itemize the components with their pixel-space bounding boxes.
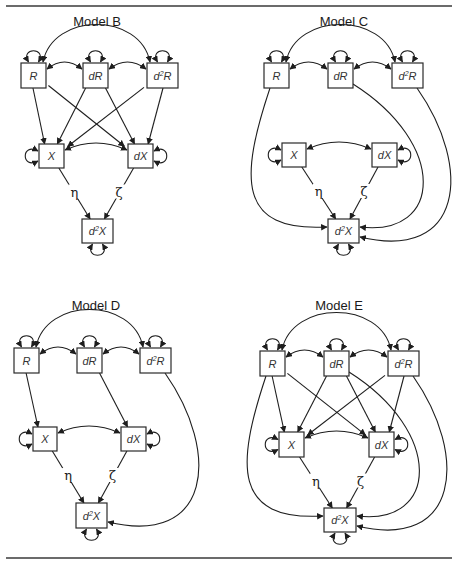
path-r-to-x <box>26 373 38 427</box>
path-r-to-x <box>33 88 45 144</box>
variance-dx <box>395 438 408 452</box>
node-label-dr: dR <box>333 70 347 82</box>
variance-d2x <box>91 244 105 255</box>
path-dr-to-dx <box>105 88 134 144</box>
variance-x <box>19 432 32 446</box>
path-label-zeta: ζ <box>109 468 116 483</box>
node-label-dr: dR <box>82 355 96 367</box>
variance-x <box>25 149 38 163</box>
path-r-to-x <box>272 376 284 432</box>
variance-dr <box>89 51 103 62</box>
model-d-panel: Model DηζRdRd2RXdXd2X <box>14 298 199 540</box>
path-d2r-to-x <box>68 87 144 146</box>
model-b-panel: Model BηζRdRd2RXdXd2X <box>21 14 178 255</box>
variance-r <box>20 336 34 347</box>
node-label-dx: dX <box>378 149 392 161</box>
path-label-eta: η <box>312 474 320 489</box>
node-label-x: X <box>289 149 298 161</box>
node-label-dr: dR <box>329 358 343 370</box>
node-label-dx: dX <box>375 439 389 451</box>
model-e-panel: Model EηζRdRd2RXdXd2X <box>247 298 447 544</box>
variance-dr <box>330 339 344 350</box>
variance-dx <box>154 149 167 163</box>
covariance-r-dr <box>47 62 82 69</box>
path-d2r-to-x <box>308 375 385 435</box>
model-panels: Model BηζRdRd2RXdXd2XModel CηζRdRd2RXdXd… <box>14 14 451 544</box>
variance-r <box>266 339 280 350</box>
node-label-x: X <box>287 439 296 451</box>
covariance-r-d2r <box>36 310 143 348</box>
path-label-zeta: ζ <box>357 474 364 489</box>
node-label-dr: dR <box>88 70 102 82</box>
path-dr-to-dx <box>100 373 128 427</box>
node-label-x: X <box>47 150 56 162</box>
variance-dx <box>398 148 411 162</box>
node-label-r: R <box>23 355 31 367</box>
variance-d2r <box>397 339 411 350</box>
covariance-x-dx <box>65 143 127 150</box>
structural-equation-model-figure: Model BηζRdRd2RXdXd2XModel CηζRdRd2RXdXd… <box>0 0 456 567</box>
path-d2r-to-dx <box>148 88 163 144</box>
covariance-dr-d2r <box>103 347 139 354</box>
covariance-x-dx <box>307 142 371 149</box>
variance-dr <box>83 336 97 347</box>
path-label-eta: η <box>64 468 72 483</box>
variance-r <box>270 51 284 62</box>
covariance-r-d2r <box>282 313 391 351</box>
variance-x <box>265 438 278 452</box>
variance-dr <box>334 51 348 62</box>
covariance-r-d2r <box>286 25 395 63</box>
covariance-r-dr <box>290 62 327 69</box>
path-label-zeta: ζ <box>115 185 122 200</box>
node-label-r: R <box>269 358 277 370</box>
covariance-r-d2r <box>43 25 150 63</box>
variance-d2r <box>401 51 415 62</box>
variance-r <box>27 51 41 62</box>
variance-d2r <box>149 336 163 347</box>
covariance-r-dr <box>40 347 76 354</box>
model-title: Model C <box>320 14 368 29</box>
covariance-r-dr <box>286 350 323 357</box>
node-label-dx: dX <box>134 150 148 162</box>
path-r-to-dx <box>287 373 365 435</box>
path-r-to-dx <box>48 85 124 146</box>
covariance-dr-d2r <box>109 62 146 69</box>
covariance-dr-d2r <box>350 350 387 357</box>
path-label-eta: η <box>315 184 323 199</box>
variance-dx <box>147 432 160 446</box>
path-label-eta: η <box>71 185 79 200</box>
node-label-x: X <box>40 433 49 445</box>
node-label-r: R <box>273 70 281 82</box>
model-c-panel: Model CηζRdRd2RXdXd2X <box>251 14 451 255</box>
model-title: Model E <box>315 298 363 313</box>
covariance-x-dx <box>305 431 368 438</box>
path-label-zeta: ζ <box>360 184 367 199</box>
variance-x <box>268 148 281 162</box>
variance-d2r <box>156 51 170 62</box>
covariance-dr-d2r <box>354 62 391 69</box>
variance-d2x <box>337 244 351 255</box>
node-label-r: R <box>30 70 38 82</box>
covariance-x-dx <box>58 426 120 433</box>
variance-d2x <box>85 529 99 540</box>
node-label-dx: dX <box>127 433 141 445</box>
path-d2r-to-dx <box>389 376 404 432</box>
variance-d2x <box>333 533 347 544</box>
